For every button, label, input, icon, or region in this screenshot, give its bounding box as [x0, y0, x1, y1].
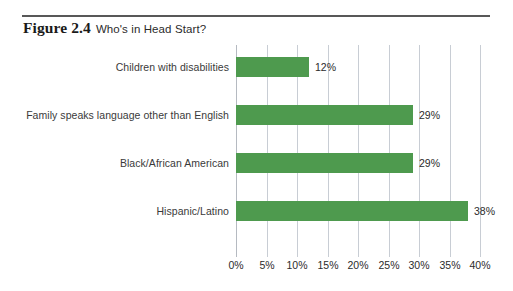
x-tick-label: 0% [228, 259, 243, 271]
category-label: Children with disabilities [116, 61, 229, 73]
figure-top-rule [22, 15, 490, 17]
x-tick-label: 5% [259, 259, 274, 271]
x-tick-label: 40% [469, 259, 490, 271]
category-label: Black/African American [120, 157, 229, 169]
bar-row: Family speaks language other than Englis… [0, 91, 513, 139]
category-label: Hispanic/Latino [156, 205, 229, 217]
x-tick-label: 35% [439, 259, 460, 271]
figure-caption: Figure 2.4Who's in Head Start? [23, 20, 206, 36]
bar[interactable] [236, 153, 413, 173]
figure-container: Figure 2.4Who's in Head Start? 0%5%10%15… [0, 0, 513, 291]
x-axis: 0%5%10%15%20%25%30%35%40% [236, 259, 480, 275]
bar-value-label: 29% [419, 109, 440, 121]
x-tick-label: 15% [317, 259, 338, 271]
bar[interactable] [236, 57, 309, 77]
bar-value-label: 29% [419, 157, 440, 169]
page-title: Who's in Head Start? [96, 23, 206, 35]
bar-row: Black/African American29% [0, 139, 513, 187]
bar-chart: 0%5%10%15%20%25%30%35%40% Children with … [0, 43, 513, 291]
bar-row: Hispanic/Latino38% [0, 187, 513, 235]
x-tick-label: 20% [347, 259, 368, 271]
bar-row: Children with disabilities12% [0, 43, 513, 91]
x-tick-label: 25% [378, 259, 399, 271]
bar[interactable] [236, 105, 413, 125]
category-label: Family speaks language other than Englis… [26, 109, 229, 121]
x-tick-label: 30% [408, 259, 429, 271]
figure-number: Figure 2.4 [23, 19, 91, 36]
x-tick-label: 10% [286, 259, 307, 271]
bar-value-label: 12% [315, 61, 336, 73]
bar-value-label: 38% [474, 205, 495, 217]
bar[interactable] [236, 201, 468, 221]
